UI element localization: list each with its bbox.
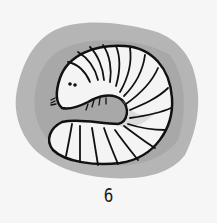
number-label: 6: [22, 183, 196, 207]
eye-icon: [68, 82, 72, 86]
illustration: 6: [0, 0, 217, 223]
